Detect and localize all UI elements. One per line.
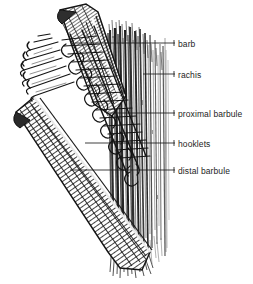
label-rachis: rachis [178,70,201,80]
label-distal-barbule: distal barbule [178,166,230,176]
feather-anatomy-figure: barbrachisproximal barbulehookletsdistal… [0,0,253,284]
feather-illustration [0,0,253,284]
label-barb: barb [178,39,195,49]
label-hooklets: hooklets [178,139,210,149]
label-proximal-barbule: proximal barbule [178,109,242,119]
